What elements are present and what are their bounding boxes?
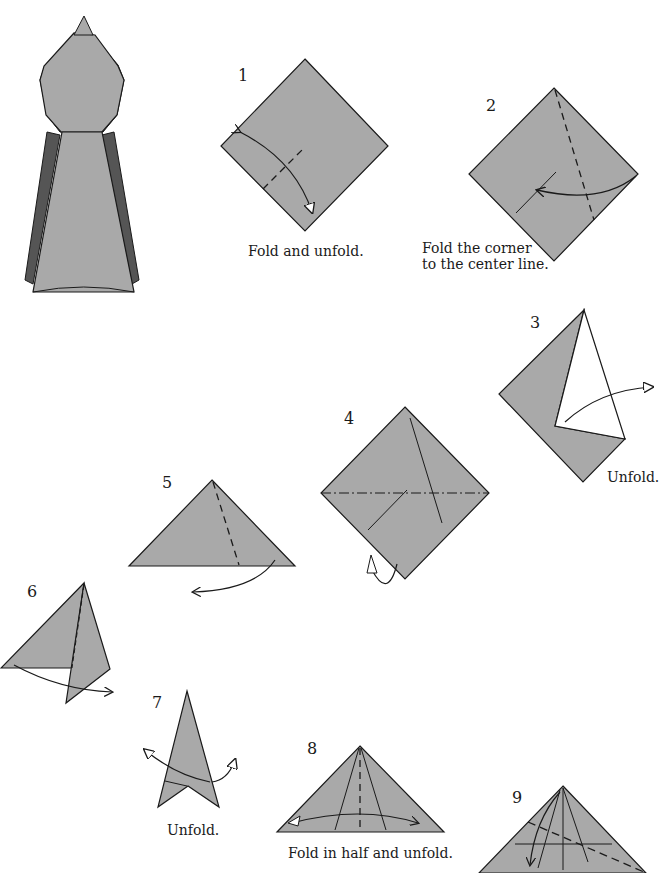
step-6-number: 6 [27,583,37,601]
step-4-diagram [321,407,489,584]
finished-model-illustration [25,16,139,292]
step-7-caption: Unfold. [167,822,219,838]
step-2-caption-line2: to the center line. [422,256,549,272]
step-1-caption: Fold and unfold. [248,243,364,259]
step-9-number: 9 [512,789,522,807]
step-7-number: 7 [152,694,162,712]
step-8-caption: Fold in half and unfold. [288,845,453,861]
step-3-diagram [499,310,652,482]
step-4-number: 4 [344,410,354,428]
step-3-number: 3 [530,314,540,332]
step-6-diagram [1,583,112,703]
step-9-diagram [479,786,646,873]
step-8-number: 8 [307,740,317,758]
step-3-caption: Unfold. [607,469,659,485]
step-5-number: 5 [162,474,172,492]
step-2-number: 2 [486,97,496,115]
step-1-number: 1 [238,67,248,85]
step-2-caption-line1: Fold the corner [422,240,532,256]
diagram-canvas [0,0,666,873]
step-8-diagram [277,746,444,832]
step-5-diagram [129,480,295,592]
